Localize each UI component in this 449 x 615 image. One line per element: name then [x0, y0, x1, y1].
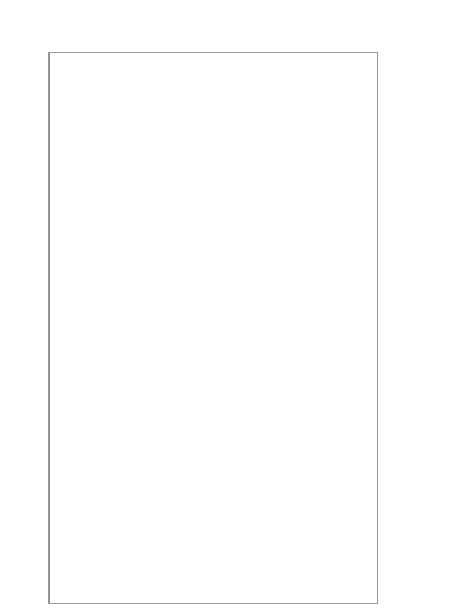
city-label-column [0, 52, 47, 604]
plot-area [48, 52, 378, 604]
zero-reference-line [49, 53, 50, 603]
region-label-column [378, 52, 449, 604]
forest-plot-figure [0, 0, 449, 615]
